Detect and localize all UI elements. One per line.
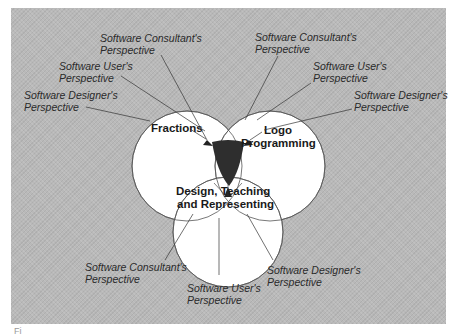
fractions-user-line2: Perspective bbox=[59, 72, 114, 84]
fractions-consultant-line1: Software Consultant's bbox=[100, 32, 203, 44]
label-design-line2: and Representing bbox=[177, 198, 274, 210]
label-design-line1: Design, Teaching bbox=[176, 185, 270, 197]
leader-logo-consultant bbox=[245, 56, 278, 120]
design-designer-line1: Software Designer's bbox=[267, 264, 361, 276]
logo-user-line2: Perspective bbox=[313, 72, 368, 84]
leader-fractions-designer bbox=[86, 107, 150, 121]
design-user-line2: Perspective bbox=[187, 294, 242, 306]
logo-consultant-line2: Perspective bbox=[255, 43, 310, 55]
venn-diagram: Fractions Logo Programming Design, Teach… bbox=[0, 0, 456, 334]
logo-user-line1: Software User's bbox=[313, 60, 388, 72]
logo-designer-line1: Software Designer's bbox=[354, 89, 448, 101]
design-consultant-line2: Perspective bbox=[85, 273, 140, 285]
logo-designer-line2: Perspective bbox=[354, 101, 409, 113]
label-logo-line1: Logo bbox=[264, 124, 292, 136]
fractions-user-line1: Software User's bbox=[59, 60, 134, 72]
fractions-consultant-line2: Perspective bbox=[100, 44, 155, 56]
logo-consultant-line1: Software Consultant's bbox=[255, 31, 358, 43]
design-designer-line2: Perspective bbox=[267, 276, 322, 288]
design-consultant-line1: Software Consultant's bbox=[85, 261, 188, 273]
design-user-line1: Software User's bbox=[187, 282, 262, 294]
fractions-designer-line2: Perspective bbox=[24, 101, 79, 113]
fractions-designer-line1: Software Designer's bbox=[24, 89, 118, 101]
figure-caption-fragment: Fi bbox=[14, 326, 22, 334]
